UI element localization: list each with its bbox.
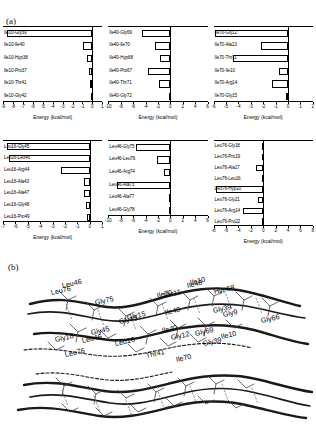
bar (136, 144, 171, 152)
axis-tick-label: 0 (287, 104, 290, 109)
bar-category-label: Leu46-Arg74 (109, 169, 134, 174)
bar (258, 197, 264, 203)
bar (83, 42, 92, 50)
axis-tick-label: -7 (1, 224, 5, 229)
axis-tick-label: -4 (38, 224, 42, 229)
axis-tick-label: -8 (11, 104, 15, 109)
bar-category-label: Leu16-Pro49 (4, 214, 29, 219)
x-axis: -10-8-6-4-20246 (108, 102, 207, 113)
axis-tick-label: -3 (249, 104, 253, 109)
zero-axis-line (92, 27, 93, 101)
axis-tick-label: -6 (224, 228, 228, 233)
backbone-strand-6 (30, 389, 310, 407)
bar-category-label: Leu76-Arg14 (215, 208, 240, 213)
axis-tick-label: -5 (224, 104, 228, 109)
axis-tick-label: -6 (212, 104, 216, 109)
plot-area: Leu46-Gly75Leu46-Leu76Leu46-Arg74Leu46-A… (108, 140, 207, 216)
bar-category-label: Leu76-Ala17 (215, 165, 240, 170)
axis-tick-label: -4 (143, 104, 147, 109)
bar-category-label: Ile40-Hyp68 (109, 55, 133, 60)
chart-row-bottom: Leu16-Gly45Leu16-Leu46Leu16-Arg44Leu16-A… (0, 140, 316, 244)
bar-chart-leu76: Leu76-Gly18Leu76-Pro19Leu76-Ala17Leu76-L… (211, 140, 316, 244)
bar-category-label: Ile10-Pro37 (4, 68, 27, 73)
backbone-strand-7 (18, 402, 306, 419)
bar (279, 68, 288, 76)
axis-tick-label: -6 (13, 224, 17, 229)
axis-tick-label: 6 (299, 228, 302, 233)
bar (256, 165, 263, 171)
x-axis-title: Energy (kcal/mol) (214, 114, 313, 120)
x-axis: -6-5-4-3-2-1012 (214, 102, 313, 113)
x-axis-title: Energy (kcal/mol) (3, 234, 102, 240)
bar (86, 202, 90, 209)
bar-category-label: Ile40-Thr71 (109, 80, 131, 85)
bar (262, 175, 264, 181)
axis-tick-label: -4 (236, 104, 240, 109)
axis-tick-label: 2 (312, 104, 315, 109)
bar-category-label: Ile70-Ala13 (215, 42, 237, 47)
axis-tick-label: -10 (105, 218, 112, 223)
axis-tick-label: -9 (1, 104, 5, 109)
axis-tick-label: -2 (156, 104, 160, 109)
axis-tick-label: -8 (119, 104, 123, 109)
bar (164, 169, 171, 177)
bar (261, 42, 288, 50)
bar-category-label: Leu16-Ala47 (4, 190, 29, 195)
bar (90, 80, 92, 88)
axis-tick-label: 0 (262, 228, 265, 233)
bar-category-label: Leu76-Gly21 (215, 197, 240, 202)
bar-category-label: Leu46-Gly78 (109, 207, 134, 212)
bar-category-label: Ile70-Gly15 (215, 93, 237, 98)
axis-tick-label: 0 (89, 224, 92, 229)
zero-axis-line (90, 141, 91, 221)
panel-a-tag: (a) (6, 16, 16, 26)
bar-category-label: Ile10-Hyp38 (4, 55, 28, 60)
bar (272, 80, 288, 88)
bar-chart-ile40: Ile40-Gly69Ile40-Ile70Ile40-Hyp68Ile40-P… (105, 26, 210, 120)
x-axis: -7-6-5-4-3-2-101 (3, 222, 102, 233)
axis-tick-label: -3 (61, 104, 65, 109)
bar-category-label: Leu46-Leu76 (109, 156, 135, 161)
bar-category-label: Ile40-Ile70 (109, 42, 129, 47)
bar-category-label: Leu76-Pro22 (215, 219, 240, 224)
figure-root: (a) Ile10-Gly39Ile10-Ile40Ile10-Hyp38Ile… (0, 0, 316, 437)
axis-tick-label: -4 (51, 104, 55, 109)
axis-tick-label: 6 (206, 218, 209, 223)
bar-category-label: Leu16-Leu46 (4, 155, 30, 160)
bar-chart-ile70: Ile70-Gly12Ile70-Ala13Ile70-Thr11Ile70-I… (211, 26, 316, 120)
bar (233, 55, 288, 63)
axis-tick-label: -2 (156, 218, 160, 223)
axis-tick-label: 4 (194, 218, 197, 223)
backbone-strand-4 (24, 343, 252, 356)
x-axis: -8-6-4-202468 (214, 226, 313, 237)
axis-tick-label: -6 (131, 104, 135, 109)
bar (89, 68, 92, 76)
bar (87, 214, 89, 221)
axis-tick-label: -2 (63, 224, 67, 229)
axis-tick-label: 8 (312, 228, 315, 233)
axis-tick-label: 6 (206, 104, 209, 109)
axis-tick-label: 0 (91, 104, 94, 109)
bar-category-label: Leu16-Gly48 (4, 202, 29, 207)
bar (262, 143, 264, 149)
zero-axis-line (170, 141, 171, 215)
bar-chart-leu16: Leu16-Gly45Leu16-Leu46Leu16-Arg44Leu16-A… (0, 140, 105, 244)
backbone-strand-5 (24, 375, 312, 392)
bar (243, 208, 263, 214)
bar (84, 178, 90, 185)
axis-tick-label: -3 (51, 224, 55, 229)
bar (84, 190, 90, 197)
bar-category-label: Ile10-Gly42 (4, 93, 26, 98)
plot-area: Leu16-Gly45Leu16-Leu46Leu16-Arg44Leu16-A… (3, 140, 102, 222)
x-axis-title: Energy (kcal/mol) (3, 114, 102, 120)
axis-tick-label: 0 (169, 218, 172, 223)
axis-tick-label: -4 (143, 218, 147, 223)
axis-tick-label: 4 (194, 104, 197, 109)
axis-tick-label: -5 (26, 224, 30, 229)
axis-tick-label: -1 (274, 104, 278, 109)
bar-category-label: Leu46-Ala73 (109, 182, 134, 187)
bar (286, 93, 288, 101)
backbone-strand-8 (36, 372, 172, 380)
bar (169, 194, 171, 202)
bar-category-label: Ile10-Thr41 (4, 80, 26, 85)
